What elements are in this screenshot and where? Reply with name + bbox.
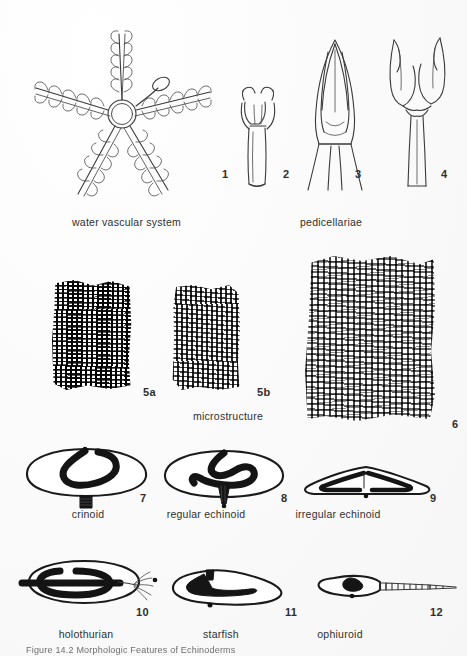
caption-crinoid: crinoid xyxy=(58,508,118,520)
figure-plate: 1 2 xyxy=(0,0,467,656)
figure-number-5a: 5a xyxy=(143,386,156,398)
figure-5b-stereom xyxy=(172,285,240,390)
figure-12-ophiuroid-section xyxy=(310,572,460,604)
figure-2-pedicellaria-stalked xyxy=(232,82,284,192)
caption-starfish: starfish xyxy=(186,628,256,640)
figure-10-holothurian-section xyxy=(22,558,162,612)
figure-number-7: 7 xyxy=(140,492,146,504)
figure-number-8: 8 xyxy=(281,492,287,504)
figure-number-4: 4 xyxy=(441,168,447,180)
figure-number-6: 6 xyxy=(452,418,458,430)
figure-number-1: 1 xyxy=(222,168,228,180)
figure-number-5b: 5b xyxy=(257,386,270,398)
figure-1-water-vascular-system xyxy=(18,22,233,202)
caption-microstructure: microstructure xyxy=(193,410,263,422)
figure-7-crinoid-section xyxy=(22,446,152,504)
caption-pedicellariae: pedicellariae xyxy=(300,216,362,228)
figure-number-11: 11 xyxy=(285,606,297,618)
figure-number-2: 2 xyxy=(283,168,289,180)
figure-number-9: 9 xyxy=(430,492,436,504)
figure-number-3: 3 xyxy=(355,168,361,180)
figure-number-12: 12 xyxy=(430,606,443,618)
plate-caption: Figure 14.2 Morphologic Features of Echi… xyxy=(26,645,236,655)
caption-regular-echinoid: regular echinoid xyxy=(160,508,252,520)
figure-5a-stereom xyxy=(52,280,132,390)
caption-ophiuroid: ophiuroid xyxy=(300,628,380,640)
figure-11-starfish-section xyxy=(166,566,290,614)
caption-holothurian: holothurian xyxy=(46,628,126,640)
figure-number-10: 10 xyxy=(136,606,149,618)
figure-9-irregular-echinoid-section xyxy=(300,464,434,504)
caption-irregular-echinoid: irregular echinoid xyxy=(288,508,388,520)
caption-water-vascular-system: water vascular system xyxy=(72,216,181,228)
figure-6-stereom xyxy=(305,256,435,421)
figure-8-regular-echinoid-section xyxy=(160,448,288,512)
